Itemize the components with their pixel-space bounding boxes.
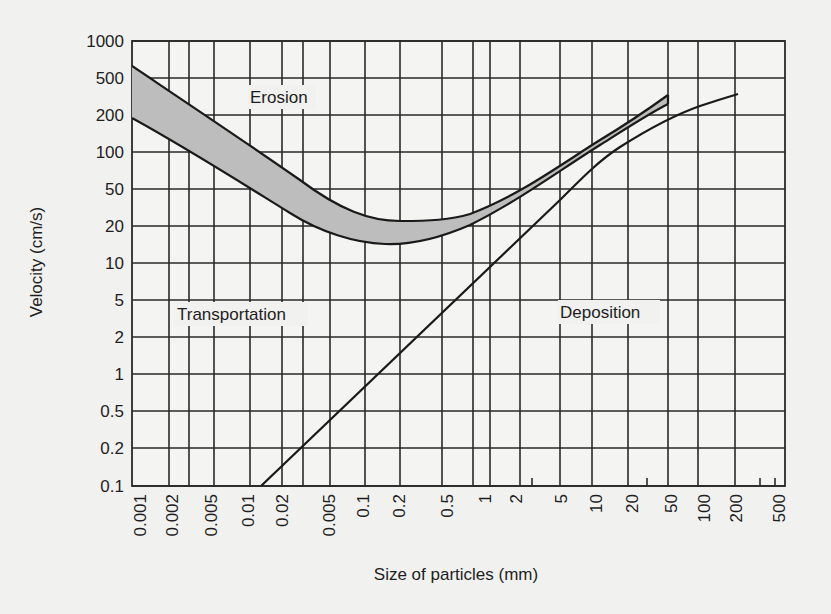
y-axis-tick-labels: 1000 500 200 100 50 20 10 5 2 1 0.5 0.2 … — [86, 32, 124, 496]
svg-text:20: 20 — [623, 494, 642, 513]
svg-text:0.5: 0.5 — [438, 494, 457, 518]
hjulstrom-chart: Erosion Transportation Deposition 1000 5… — [0, 0, 831, 614]
svg-text:500: 500 — [770, 494, 789, 522]
svg-text:0.5: 0.5 — [100, 402, 124, 421]
svg-text:0.2: 0.2 — [390, 494, 409, 518]
svg-text:200: 200 — [96, 106, 124, 125]
svg-text:0.2: 0.2 — [100, 439, 124, 458]
svg-text:20: 20 — [105, 217, 124, 236]
svg-text:1000: 1000 — [86, 32, 124, 51]
svg-text:2: 2 — [507, 494, 526, 503]
svg-text:50: 50 — [105, 180, 124, 199]
y-axis-title: Velocity (cm/s) — [27, 207, 46, 318]
svg-text:0.1: 0.1 — [100, 477, 124, 496]
svg-text:0.01: 0.01 — [239, 494, 258, 527]
svg-text:1: 1 — [115, 365, 124, 384]
svg-text:0.005: 0.005 — [320, 494, 339, 537]
x-axis-tick-labels: 0.001 0.002 0.005 0.01 0.02 0.005 0.1 0.… — [131, 494, 789, 537]
svg-text:200: 200 — [727, 494, 746, 522]
svg-text:5: 5 — [552, 494, 571, 503]
svg-text:0.002: 0.002 — [163, 494, 182, 537]
svg-text:0.001: 0.001 — [131, 494, 150, 537]
x-axis-title: Size of particles (mm) — [374, 565, 538, 584]
svg-text:0.02: 0.02 — [273, 494, 292, 527]
svg-text:5: 5 — [115, 291, 124, 310]
svg-text:10: 10 — [587, 494, 606, 513]
svg-text:100: 100 — [96, 143, 124, 162]
svg-text:100: 100 — [695, 494, 714, 522]
svg-text:0.1: 0.1 — [354, 494, 373, 518]
svg-text:1: 1 — [476, 494, 495, 503]
region-label-deposition: Deposition — [560, 303, 640, 322]
region-label-transportation: Transportation — [177, 305, 286, 324]
svg-text:10: 10 — [105, 254, 124, 273]
svg-text:50: 50 — [662, 494, 681, 513]
svg-text:2: 2 — [115, 328, 124, 347]
region-label-erosion: Erosion — [250, 88, 308, 107]
svg-text:0.005: 0.005 — [202, 494, 221, 537]
svg-text:500: 500 — [96, 69, 124, 88]
